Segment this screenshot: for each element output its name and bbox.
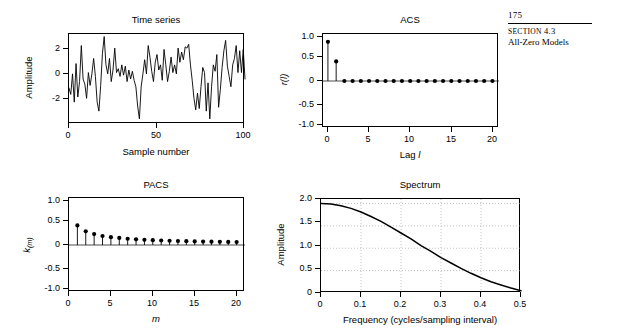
acs-ytick-mark — [317, 104, 322, 105]
acs-plot-box — [322, 33, 498, 127]
pacs-plot-box — [68, 197, 244, 291]
stem-marker — [342, 79, 346, 83]
stem-marker — [142, 238, 146, 242]
pacs-ytick-mark — [63, 200, 68, 201]
acs-xtick-mark — [492, 127, 493, 132]
spectrum-ytick-mark — [315, 268, 320, 269]
stem-marker — [84, 229, 88, 233]
stem-marker — [109, 235, 113, 239]
spectrum-xtick-mark — [360, 292, 361, 297]
acs-xtick-label: 5 — [353, 135, 383, 144]
stem-marker — [351, 79, 355, 83]
spectrum-plot-box — [320, 198, 520, 292]
spectrum-curve — [321, 203, 521, 290]
stem-marker — [482, 79, 486, 83]
stem-marker — [383, 79, 387, 83]
spectrum-xtick-label: 0.5 — [505, 300, 535, 309]
stem-marker — [159, 238, 163, 242]
time-series-ylabel: Amplitude — [23, 38, 34, 118]
spectrum-xtick-label: 0 — [305, 300, 335, 309]
spectrum-xlabel: Frequency (cycles/sampling interval) — [300, 314, 540, 325]
pacs-stem-plot — [69, 198, 245, 292]
stem-marker — [134, 237, 138, 241]
time-series-xtick-mark — [68, 123, 69, 128]
stem-marker — [193, 239, 197, 243]
acs-xtick-mark — [368, 127, 369, 132]
time-series-xtick-label: 0 — [53, 131, 83, 140]
pacs-xtick-mark — [68, 291, 69, 296]
stem-marker — [392, 79, 396, 83]
spectrum-xtick-mark — [320, 292, 321, 297]
acs-xlabel-symbol: l — [418, 149, 420, 160]
acs-ytick-mark — [317, 80, 322, 81]
pacs-xlabel: m — [68, 313, 244, 324]
spectrum-chart — [321, 199, 521, 293]
stem-marker — [416, 79, 420, 83]
stem-marker — [167, 239, 171, 243]
time-series-xtick-label: 100 — [228, 131, 258, 140]
pacs-title: PACS — [68, 179, 244, 190]
pacs-ytick-label: 1.0 — [28, 196, 60, 205]
pacs-xtick-mark — [152, 291, 153, 296]
spectrum-xtick-label: 0.1 — [345, 300, 375, 309]
acs-title: ACS — [322, 14, 498, 25]
time-series-title: Time series — [68, 14, 244, 25]
stem-marker — [466, 79, 470, 83]
spectrum-xtick-mark — [440, 292, 441, 297]
time-series-xtick-label: 50 — [141, 131, 171, 140]
pacs-ylabel: k(m) — [21, 205, 35, 285]
acs-xtick-label: 15 — [436, 135, 466, 144]
stem-marker — [226, 240, 230, 244]
stem-marker — [457, 79, 461, 83]
acs-xtick-mark — [327, 127, 328, 132]
pacs-xtick-label: 15 — [179, 299, 209, 308]
stem-marker — [326, 40, 330, 44]
pacs-ytick-mark — [63, 288, 68, 289]
pacs-xtick-label: 20 — [221, 299, 251, 308]
stem-marker — [235, 240, 239, 244]
spectrum-title: Spectrum — [320, 179, 520, 190]
acs-xlabel: Lag l — [322, 149, 498, 160]
panel-spectrum: Spectrum 2.0 1.5 1.0 0.5 0 0 0.1 0.2 0.3… — [255, 175, 585, 330]
spectrum-ytick-label: 0 — [280, 288, 312, 297]
time-series-ytick-label: 2 — [36, 44, 60, 53]
spectrum-ylabel: Amplitude — [275, 205, 286, 285]
pacs-xtick-mark — [236, 291, 237, 296]
figure-page: 175 SECTION 4.3 All-Zero Models Time ser… — [0, 0, 619, 330]
time-series-xtick-mark — [156, 123, 157, 128]
acs-ytick-mark — [317, 36, 322, 37]
spectrum-ytick-mark — [315, 221, 320, 222]
pacs-ytick-mark — [63, 268, 68, 269]
acs-ylabel: r(l) — [278, 40, 289, 120]
spectrum-xtick-mark — [480, 292, 481, 297]
spectrum-ytick-label: 2.0 — [280, 194, 312, 203]
pacs-ytick-mark — [63, 220, 68, 221]
acs-xtick-mark — [409, 127, 410, 132]
stem-marker — [449, 79, 453, 83]
acs-ytick-mark — [317, 56, 322, 57]
spectrum-ytick-mark — [315, 245, 320, 246]
pacs-xtick-mark — [110, 291, 111, 296]
time-series-xtick-mark — [243, 123, 244, 128]
time-series-curve — [69, 34, 245, 124]
stem-marker — [367, 79, 371, 83]
panel-acs: ACS 1.0 0.5 0 -0.5 -1.0 0 5 10 15 20 Lag… — [255, 0, 555, 170]
stem-marker — [334, 59, 338, 63]
stem-marker — [126, 237, 130, 241]
pacs-xtick-label: 0 — [53, 299, 83, 308]
stem-marker — [433, 79, 437, 83]
acs-xtick-label: 0 — [312, 135, 342, 144]
acs-xtick-label: 10 — [394, 135, 424, 144]
time-series-plot-box — [68, 33, 244, 123]
stem-marker — [100, 234, 104, 238]
stem-marker — [441, 79, 445, 83]
stem-marker — [184, 239, 188, 243]
spectrum-xtick-mark — [400, 292, 401, 297]
spectrum-xtick-label: 0.3 — [425, 300, 455, 309]
stem-marker — [92, 232, 96, 236]
pacs-xtick-label: 10 — [137, 299, 167, 308]
time-series-ytick-label: 0 — [36, 69, 60, 78]
acs-ytick-mark — [317, 124, 322, 125]
time-series-ytick-mark — [63, 73, 68, 74]
stem-marker — [359, 79, 363, 83]
